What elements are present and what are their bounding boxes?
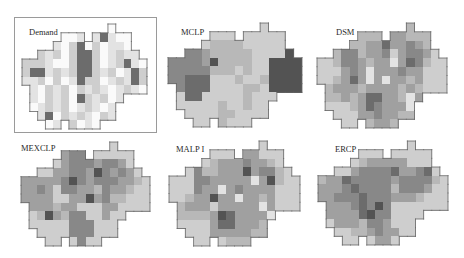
map-cell <box>177 211 186 220</box>
map-cell <box>416 210 425 219</box>
map-cell <box>77 194 85 203</box>
map-cell <box>45 85 53 94</box>
map-cell <box>431 84 440 93</box>
map-cell <box>424 184 433 193</box>
map-cell <box>45 103 53 112</box>
map-cell <box>86 237 94 246</box>
map-cell <box>61 211 69 220</box>
map-cell <box>193 92 202 101</box>
map-cell <box>30 94 38 103</box>
map-cell <box>407 228 416 237</box>
map-cell <box>333 93 342 102</box>
map-cell <box>185 194 194 203</box>
map-cell <box>77 168 85 177</box>
map-cell <box>92 68 100 77</box>
map-cell <box>53 77 61 86</box>
map-cell <box>227 75 236 84</box>
map-cell <box>94 194 102 203</box>
map-cell <box>53 85 61 94</box>
map-cell <box>275 194 284 203</box>
map-cell <box>53 59 61 68</box>
map-cell <box>193 49 202 58</box>
map-cell <box>218 229 227 238</box>
map-cell <box>267 211 276 220</box>
map-cell <box>218 237 227 246</box>
map-cell <box>194 167 203 176</box>
map-cell <box>86 220 94 229</box>
map-cell <box>226 194 235 203</box>
map-cell <box>37 168 45 177</box>
map-cell <box>275 150 284 159</box>
map-cell <box>53 177 61 186</box>
map-cell <box>85 85 93 94</box>
map-cell <box>399 184 408 193</box>
map-cell <box>139 77 147 86</box>
map-cell <box>342 202 351 211</box>
map-cell <box>21 185 29 194</box>
map-cell <box>218 167 227 176</box>
map-cell <box>29 220 37 229</box>
map-cell <box>69 120 77 129</box>
map-cell <box>38 77 46 86</box>
map-cell <box>432 193 441 202</box>
map-cell <box>202 202 211 211</box>
map-cell <box>439 58 448 67</box>
map-cell <box>243 150 252 159</box>
map-cell <box>185 75 194 84</box>
map-cell <box>227 84 236 93</box>
map-cell <box>45 237 53 246</box>
map-cell <box>424 158 433 167</box>
map-cell <box>131 68 139 77</box>
panel-label-mexclp: MEXCLP <box>21 143 56 153</box>
map-cell <box>342 236 351 245</box>
map-cell <box>243 84 252 93</box>
map-cell <box>210 176 219 185</box>
map-cell <box>69 159 77 168</box>
map-cell <box>415 76 424 85</box>
map-cell <box>292 176 301 185</box>
map-cell <box>235 185 244 194</box>
map-cell <box>382 111 391 120</box>
map-cell <box>243 211 252 220</box>
map-cell <box>85 42 93 51</box>
map-cell <box>185 185 194 194</box>
panel-label-dsm: DSM <box>336 27 355 37</box>
map-cell <box>383 158 392 167</box>
map-cell <box>277 84 286 93</box>
map-cell <box>243 185 252 194</box>
map-cell <box>100 103 108 112</box>
map-cell <box>202 84 211 93</box>
map-cell <box>53 42 61 51</box>
map-cell <box>226 167 235 176</box>
map-cell <box>86 203 94 212</box>
map-cell <box>100 42 108 51</box>
map-cell <box>341 84 350 93</box>
map-cell <box>53 185 61 194</box>
map-cell <box>176 75 185 84</box>
map-cell <box>267 176 276 185</box>
map-cell <box>399 176 408 185</box>
map-cell <box>243 101 252 110</box>
map-cell <box>399 158 408 167</box>
map-cell <box>398 58 407 67</box>
demand-map-grid <box>22 24 147 129</box>
map-cell <box>116 68 124 77</box>
map-cell <box>194 202 203 211</box>
map-cell <box>61 59 69 68</box>
map-cell <box>102 151 110 160</box>
map-cell <box>169 194 178 203</box>
map-cell <box>235 194 244 203</box>
map-cell <box>218 58 227 67</box>
map-cell <box>351 193 360 202</box>
map-cell <box>210 75 219 84</box>
map-cell <box>398 67 407 76</box>
map-cell <box>243 110 252 119</box>
map-cell <box>53 68 61 77</box>
map-cell <box>235 118 244 127</box>
map-cell <box>383 176 392 185</box>
map-cell <box>85 50 93 59</box>
map-cell <box>86 168 94 177</box>
map-cell <box>251 176 260 185</box>
map-cell <box>92 112 100 121</box>
map-cell <box>92 50 100 59</box>
